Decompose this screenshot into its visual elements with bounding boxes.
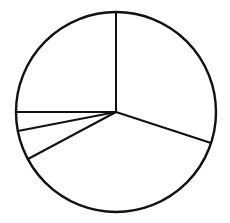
pie-chart-svg [0,0,230,223]
pie-slice-1[interactable] [116,12,216,112]
pie-chart-figure [0,0,230,223]
